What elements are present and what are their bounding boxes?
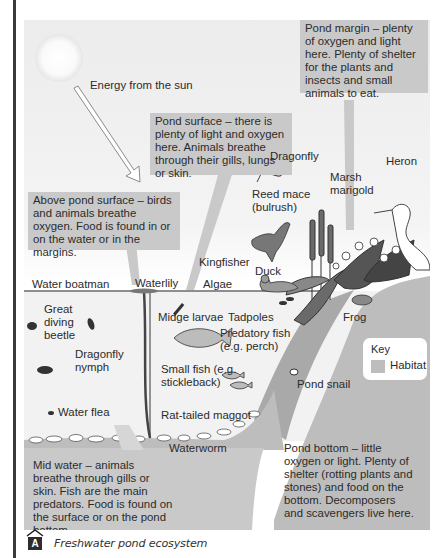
midge-larvae-label: Midge larvae <box>158 311 223 324</box>
frog-icon <box>352 295 372 305</box>
sun-icon <box>35 34 83 82</box>
marsh-marigold-label: Marsh marigold <box>330 171 378 197</box>
kingfisher-icon <box>252 223 290 262</box>
great-diving-beetle-label: Great diving beetle <box>44 303 84 342</box>
reed-mace-label: Reed mace (bulrush) <box>252 188 314 214</box>
pond-bottom-box: Pond bottom – little oxygen or light. Pl… <box>279 440 419 520</box>
sun-energy-label: Energy from the sun <box>90 79 193 92</box>
mid-water-box: Mid water – animals breathe through gill… <box>28 457 180 525</box>
caption-chevron-icon <box>26 529 44 537</box>
pond-ecosystem-figure: Energy from the sun Pond margin – plenty… <box>24 20 430 530</box>
dragonfly-nymph-icon <box>37 366 53 374</box>
kingfisher-label: Kingfisher <box>199 256 250 269</box>
sun-energy-arrow <box>74 86 140 182</box>
water-flea-icon <box>48 411 54 415</box>
waterworm-label: Waterworm <box>169 442 227 455</box>
pond-margin-pointer <box>344 100 354 230</box>
key-legend: Key Habitat <box>363 338 427 380</box>
water-flea-label: Water flea <box>58 406 110 419</box>
tadpoles-label: Tadpoles <box>228 311 274 324</box>
pond-snail-icon <box>290 369 298 375</box>
habitat-label: Habitat <box>390 359 426 371</box>
heron-label: Heron <box>386 155 417 168</box>
water-boatman-label: Water boatman <box>32 278 109 291</box>
caption-text: Freshwater pond ecosystem <box>54 537 207 550</box>
tadpole-icon <box>279 301 287 305</box>
above-surface-box: Above pond surface – birds and animals b… <box>28 192 180 250</box>
rat-tailed-maggot-label: Rat-tailed maggot <box>161 409 251 422</box>
frog-label: Frog <box>343 311 366 324</box>
algae-label: Algae <box>203 278 232 291</box>
caption-letter-badge: A <box>28 537 42 550</box>
predatory-fish-label: Predatory fish (e.g. perch) <box>220 327 312 353</box>
dragonfly-label: Dragonfly <box>270 150 319 163</box>
great-diving-beetle-icon <box>27 322 37 330</box>
dragonfly-nymph-label: Dragonfly nymph <box>75 348 125 374</box>
habitat-swatch <box>371 360 385 373</box>
small-fish-label: Small fish (e.g. stickleback) <box>161 363 261 389</box>
left-margin-rule <box>13 0 16 558</box>
duck-label: Duck <box>255 265 281 278</box>
pond-surface-box: Pond surface – there is plenty of light … <box>150 113 292 175</box>
pond-margin-box: Pond margin – plenty of oxygen and light… <box>300 20 428 93</box>
pond-snail-label: Pond snail <box>297 378 350 391</box>
waterlily-label: Waterlily <box>135 277 178 290</box>
key-title: Key <box>371 343 390 355</box>
